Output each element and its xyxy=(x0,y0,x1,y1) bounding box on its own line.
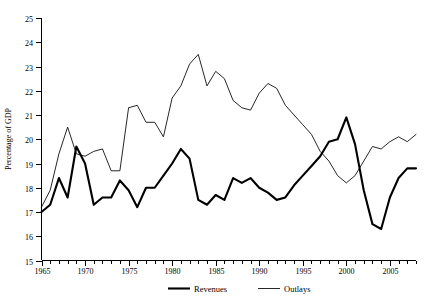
y-tick-label-15: 15 xyxy=(25,258,33,267)
y-tick-label-17: 17 xyxy=(25,209,33,218)
x-tick-label-group: 196519701975198019851990199520002005 xyxy=(35,267,399,276)
y-tick-label-19: 19 xyxy=(25,161,33,170)
legend-label-outlays: Outlays xyxy=(284,284,310,294)
x-tick-label-2000: 2000 xyxy=(339,267,355,276)
y-tick-label-25: 25 xyxy=(25,15,33,24)
y-tick-label-20: 20 xyxy=(25,136,33,145)
x-tick-label-1995: 1995 xyxy=(296,267,312,276)
line-chart: 1516171819202122232425 Percentage of GDP… xyxy=(0,0,429,305)
y-tick-label-22: 22 xyxy=(25,88,33,97)
x-tick-label-1980: 1980 xyxy=(165,267,181,276)
x-tick-label-1965: 1965 xyxy=(35,267,51,276)
y-tick-label-23: 23 xyxy=(25,64,33,73)
y-axis-title: Percentage of GDP xyxy=(4,108,13,170)
y-tick-label-24: 24 xyxy=(25,39,33,48)
chart-background xyxy=(0,0,429,305)
x-tick-label-1985: 1985 xyxy=(209,267,225,276)
x-tick-label-1970: 1970 xyxy=(78,267,94,276)
y-tick-label-21: 21 xyxy=(25,112,33,121)
y-tick-label-18: 18 xyxy=(25,185,33,194)
x-tick-label-1975: 1975 xyxy=(122,267,138,276)
x-tick-label-2005: 2005 xyxy=(383,267,399,276)
y-tick-label-16: 16 xyxy=(25,233,33,242)
chart-figure: 1516171819202122232425 Percentage of GDP… xyxy=(0,0,429,305)
x-tick-label-1990: 1990 xyxy=(252,267,268,276)
legend-label-revenues: Revenues xyxy=(194,284,227,294)
